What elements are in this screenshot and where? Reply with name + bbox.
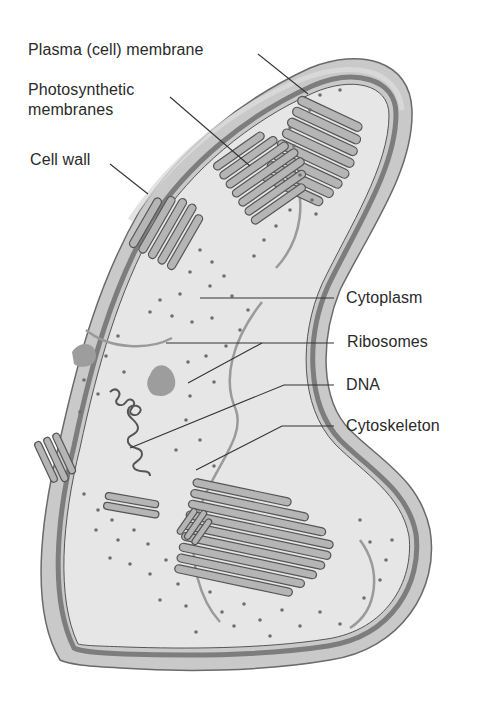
label-plasma-membrane: Plasma (cell) membrane — [28, 40, 204, 59]
label-dna: DNA — [346, 375, 380, 394]
leader-cell-wall — [110, 164, 148, 194]
label-cytoskeleton: Cytoskeleton — [346, 416, 440, 435]
label-photosynthetic-membranes-line2: membranes — [28, 100, 113, 119]
label-cytoplasm: Cytoplasm — [346, 288, 422, 307]
label-ribosomes: Ribosomes — [347, 332, 428, 351]
label-photosynthetic-membranes-line1: Photosynthetic — [28, 80, 134, 99]
cell-diagram: Plasma (cell) membrane Photosynthetic me… — [0, 0, 484, 712]
label-cell-wall: Cell wall — [30, 150, 90, 169]
